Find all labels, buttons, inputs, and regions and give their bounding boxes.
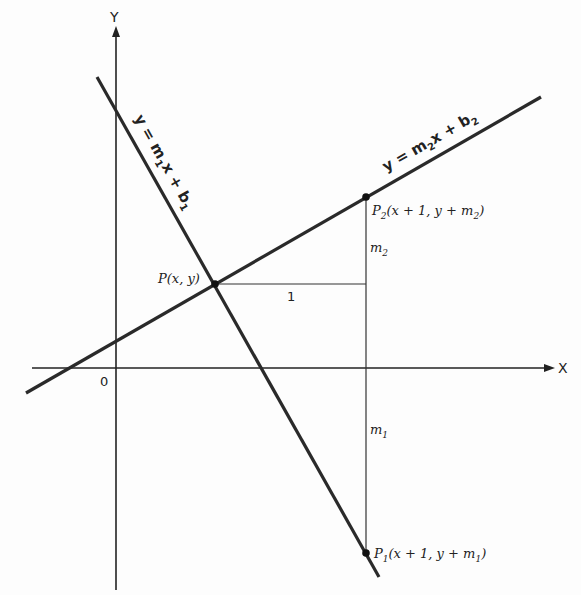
rise-m2-label: m2 xyxy=(370,240,388,258)
run-label: 1 xyxy=(287,289,295,304)
y-axis-arrow-icon xyxy=(112,26,120,37)
point-p xyxy=(211,280,219,288)
point-p2 xyxy=(362,193,370,201)
x-axis-arrow-icon xyxy=(544,364,555,372)
x-axis-label: X xyxy=(558,360,568,376)
line-2 xyxy=(26,97,541,393)
point-p-label: P(x, y) xyxy=(157,271,200,286)
rise-m1-label: m1 xyxy=(370,422,388,440)
diagram-svg: Y X 0 y = m1x + b1 y = m2x + b2 P(x, y) … xyxy=(0,0,581,595)
slope-diagram: Y X 0 y = m1x + b1 y = m2x + b2 P(x, y) … xyxy=(0,0,581,595)
point-p1-label: P1(x + 1, y + m1) xyxy=(373,546,486,564)
x-axis xyxy=(32,364,555,372)
y-axis-label: Y xyxy=(109,9,119,25)
point-p1 xyxy=(362,549,370,557)
origin-label: 0 xyxy=(100,374,108,389)
point-p2-label: P2(x + 1, y + m2) xyxy=(371,203,484,221)
